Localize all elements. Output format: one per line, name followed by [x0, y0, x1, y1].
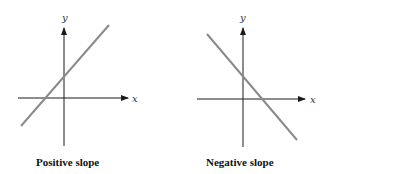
caption-negative-slope: Negative slope [206, 156, 274, 168]
negative-slope-line [207, 34, 297, 140]
caption-positive-slope: Positive slope [36, 156, 99, 168]
slope-diagram: y x Positive slope y x Negative slope [0, 0, 417, 174]
y-axis-label: y [239, 12, 246, 23]
positive-slope-line [21, 25, 109, 126]
positive-slope-panel: y x Positive slope [18, 12, 138, 168]
y-axis-label: y [61, 12, 68, 23]
x-axis-label: x [132, 93, 138, 104]
x-axis-label: x [310, 94, 316, 105]
negative-slope-panel: y x Negative slope [197, 12, 316, 168]
